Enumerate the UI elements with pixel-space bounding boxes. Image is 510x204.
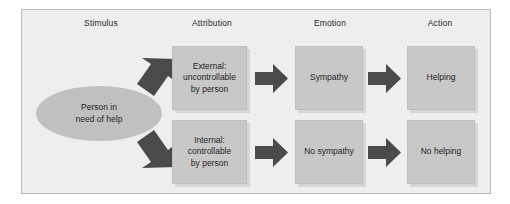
attribution-box-external: External: uncontrollable by person <box>172 46 247 110</box>
stimulus-line-2: need of help <box>76 114 123 124</box>
emotion-box-no-sympathy-label: No sympathy <box>301 146 357 158</box>
arrow-stimulus-to-internal <box>133 127 177 169</box>
action-box-helping: Helping <box>407 46 475 110</box>
attribution-flow-diagram: Stimulus Attribution Emotion Action Pers… <box>0 0 510 204</box>
action-box-helping-label: Helping <box>424 72 459 84</box>
attribution-external-line-1: External: <box>193 61 227 71</box>
column-header-action: Action <box>428 18 453 28</box>
attribution-external-line-2: uncontrollable <box>183 72 236 82</box>
attribution-internal-line-3: by person <box>191 158 228 168</box>
emotion-box-sympathy-label: Sympathy <box>307 72 351 84</box>
attribution-box-internal-label: Internal: controllable by person <box>185 135 234 170</box>
column-header-stimulus: Stimulus <box>84 18 118 28</box>
column-header-attribution: Attribution <box>192 18 232 28</box>
attribution-external-line-3: by person <box>191 84 228 94</box>
stimulus-line-1: Person in <box>81 102 117 112</box>
stimulus-ellipse-label: Person in need of help <box>76 102 123 125</box>
arrow-nosympathy-to-nohelping <box>368 137 402 168</box>
action-box-no-helping: No helping <box>407 120 475 184</box>
emotion-box-no-sympathy: No sympathy <box>295 120 363 184</box>
attribution-box-internal: Internal: controllable by person <box>172 120 247 184</box>
attribution-box-external-label: External: uncontrollable by person <box>180 61 239 96</box>
arrow-stimulus-to-external <box>133 57 177 99</box>
column-header-emotion: Emotion <box>314 18 346 28</box>
arrow-sympathy-to-helping <box>368 63 402 94</box>
action-box-no-helping-label: No helping <box>418 146 465 158</box>
emotion-box-sympathy: Sympathy <box>295 46 363 110</box>
attribution-internal-line-2: controllable <box>188 146 231 156</box>
arrow-external-to-sympathy <box>255 63 289 94</box>
arrow-internal-to-nosympathy <box>255 137 289 168</box>
attribution-internal-line-1: Internal: <box>194 135 225 145</box>
